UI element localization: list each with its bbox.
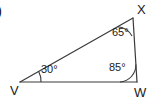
angle-measure-w: 85° [109,62,126,73]
vertex-label-v: V [10,84,19,97]
angle-measure-v: 30° [41,64,58,75]
side-wx [133,18,137,82]
angle-measure-x: 65° [112,27,129,38]
vertex-label-w: W [134,86,146,99]
geometry-diagram: ) V W X 30° 65° 85° [0,0,162,107]
vertex-label-x: X [137,3,146,16]
